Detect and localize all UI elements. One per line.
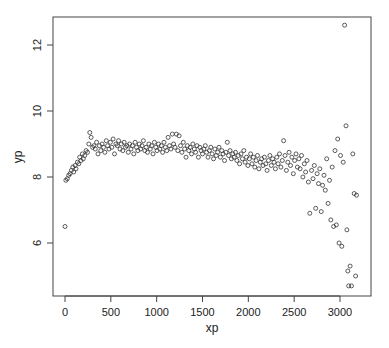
data-point (273, 167, 277, 171)
data-point (329, 218, 333, 222)
data-point (141, 139, 145, 143)
y-tick-label: 8 (31, 174, 43, 180)
data-point (132, 152, 136, 156)
y-tick-label: 10 (31, 105, 43, 117)
data-point (310, 168, 314, 172)
data-point (179, 144, 183, 148)
data-point (301, 175, 305, 179)
data-point (181, 140, 185, 144)
x-tick-label: 1500 (190, 306, 214, 318)
data-point (348, 264, 352, 268)
data-point (206, 155, 210, 159)
data-point (322, 173, 326, 177)
data-point (190, 152, 194, 156)
data-point (133, 140, 137, 144)
data-point (283, 154, 287, 158)
data-point (325, 157, 329, 161)
data-point (323, 188, 327, 192)
data-point (253, 165, 257, 169)
data-point (279, 165, 283, 169)
data-point (87, 142, 91, 146)
data-point (340, 244, 344, 248)
y-axis: 681012 (31, 39, 53, 246)
data-point (111, 137, 115, 141)
data-point (294, 152, 298, 156)
data-point (246, 164, 250, 168)
data-point (282, 139, 286, 143)
data-point (272, 160, 276, 164)
data-point (162, 140, 166, 144)
data-point (176, 149, 180, 153)
data-point (184, 155, 188, 159)
data-point (256, 154, 260, 158)
data-point (161, 150, 165, 154)
x-tick-label: 2500 (282, 306, 306, 318)
data-point (314, 206, 318, 210)
data-point (339, 154, 343, 158)
data-point (257, 167, 261, 171)
data-point (312, 164, 316, 168)
data-point (317, 182, 321, 186)
data-point (345, 228, 349, 232)
data-point (278, 152, 282, 156)
data-point (306, 180, 310, 184)
data-point (351, 152, 355, 156)
data-point (166, 135, 170, 139)
x-tick-label: 500 (102, 306, 120, 318)
data-point (343, 23, 347, 27)
data-point (326, 201, 330, 205)
data-point (284, 168, 288, 172)
data-point (242, 149, 246, 153)
scatter-chart: 050010001500200025003000 681012 xp yp (0, 0, 389, 348)
data-point (341, 160, 345, 164)
data-point (291, 172, 295, 176)
data-point (265, 168, 269, 172)
data-point (354, 274, 358, 278)
y-axis-title: yp (11, 150, 25, 163)
data-point (350, 284, 354, 288)
data-point (223, 159, 227, 163)
data-point (95, 140, 99, 144)
data-point (330, 165, 334, 169)
data-point (88, 131, 92, 135)
data-point (300, 154, 304, 158)
data-point (196, 155, 200, 159)
data-point (308, 211, 312, 215)
data-point (319, 210, 323, 214)
data-point (321, 183, 325, 187)
x-tick-label: 1000 (144, 306, 168, 318)
data-point (305, 159, 309, 163)
data-point (344, 124, 348, 128)
data-point (289, 164, 293, 168)
data-point (63, 225, 67, 229)
data-point (103, 150, 107, 154)
data-point (328, 178, 332, 182)
data-point (191, 142, 195, 146)
y-tick-label: 6 (31, 240, 43, 246)
data-point (113, 152, 117, 156)
data-points (63, 23, 359, 288)
data-point (238, 162, 242, 166)
data-point (225, 140, 229, 144)
data-point (287, 150, 291, 154)
data-point (280, 159, 284, 163)
x-tick-label: 0 (62, 306, 68, 318)
data-point (311, 177, 315, 181)
data-point (170, 132, 174, 136)
data-point (336, 137, 340, 141)
data-point (151, 152, 155, 156)
data-point (318, 167, 322, 171)
data-point (293, 159, 297, 163)
x-tick-label: 2000 (236, 306, 260, 318)
plot-frame (53, 17, 371, 296)
x-axis-title: xp (206, 321, 219, 335)
data-point (89, 135, 93, 139)
data-point (152, 140, 156, 144)
data-point (315, 172, 319, 176)
y-tick-label: 12 (31, 39, 43, 51)
data-point (210, 152, 214, 156)
data-point (267, 159, 271, 163)
data-point (104, 139, 108, 143)
data-point (304, 170, 308, 174)
data-point (254, 159, 258, 163)
